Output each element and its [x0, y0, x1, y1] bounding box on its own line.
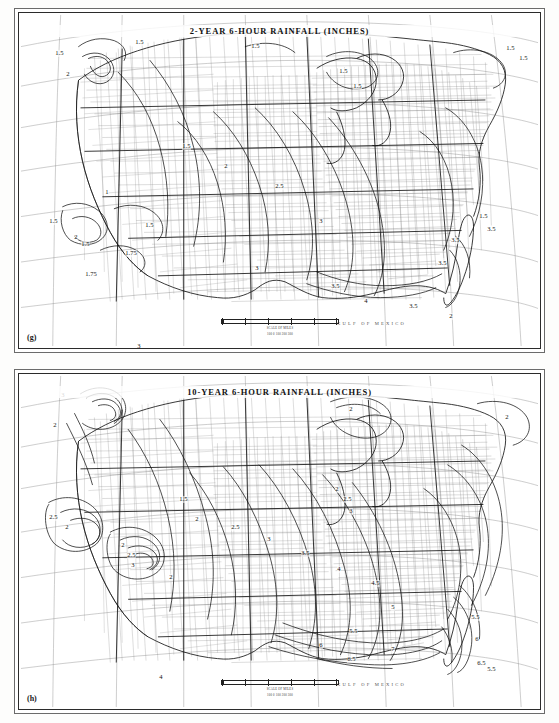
- contour-label: 2: [65, 524, 69, 531]
- contour-label: 5.5: [349, 628, 358, 635]
- contour-label: 6: [475, 636, 479, 643]
- contour-label: 1.75: [85, 271, 97, 278]
- scale-bar-h: SCALE OF MILES 100 0 100 200 300: [221, 680, 339, 697]
- contour-label: 1.5: [339, 68, 348, 75]
- map-frame-g: 1.5 1.5 1.5 1.5 1.5 1.5 1.5 2 1.5 2 1.5 …: [18, 12, 541, 349]
- contour-label: 2.5: [49, 514, 58, 521]
- map-graphic-10year: [19, 374, 540, 709]
- contour-label: 6.5: [477, 660, 486, 667]
- gulf-of-mexico-label: GULF OF MEXICO: [337, 321, 406, 326]
- scale-caption-line2: 100 0 100 200 300: [225, 332, 334, 336]
- contour-label: 2.5: [343, 496, 352, 503]
- map-panel-h: 3 2 2 2 2.5 2 2 2.5 3 2 2 2.5 3 1.5 2 2.…: [14, 369, 545, 714]
- contour-label: 4.5: [371, 580, 380, 587]
- contour-label: 2.5: [275, 183, 284, 190]
- document-page: 1.5 1.5 1.5 1.5 1.5 1.5 1.5 2 1.5 2 1.5 …: [0, 0, 559, 723]
- contour-label: 1.5: [353, 83, 362, 90]
- contour-label: 3.5: [331, 283, 340, 290]
- contour-label: 1.5: [55, 50, 64, 57]
- scale-bar-g: SCALE OF MILES 100 0 100 200 300: [221, 319, 339, 336]
- scale-bar-graphic: [221, 680, 339, 685]
- contour-label: 1.5: [479, 213, 488, 220]
- contour-label: 2: [505, 414, 509, 421]
- contour-label: 3: [255, 265, 259, 272]
- contour-label: 1.5: [251, 43, 260, 50]
- contour-label: 3: [61, 392, 65, 399]
- contour-label: 1.5: [145, 222, 154, 229]
- contour-label: 2: [66, 71, 70, 78]
- contour-label: 2: [335, 486, 339, 493]
- map-panel-g: 1.5 1.5 1.5 1.5 1.5 1.5 1.5 2 1.5 2 1.5 …: [14, 8, 545, 353]
- contour-label: 4: [337, 566, 341, 573]
- contour-label: 3.5: [451, 237, 460, 244]
- gulf-of-mexico-label: GULF OF MEXICO: [337, 682, 406, 687]
- contour-label: 3: [131, 562, 135, 569]
- contour-label: 1.5: [519, 55, 528, 62]
- contour-label: 3.5: [301, 550, 310, 557]
- contour-label: 5: [391, 604, 395, 611]
- map-graphic-2year: [19, 13, 540, 348]
- scale-bar-graphic: [221, 319, 339, 324]
- contour-label: 2.5: [231, 524, 240, 531]
- scale-caption-line1: SCALE OF MILES: [225, 326, 334, 330]
- contour-label: 2: [53, 422, 57, 429]
- scale-caption-line2: 100 0 100 200 300: [225, 693, 334, 697]
- contour-label: 2: [449, 313, 453, 320]
- contour-label: 2: [121, 542, 125, 549]
- contour-label: 1.5: [135, 39, 144, 46]
- contour-label: 2: [195, 516, 199, 523]
- contour-label: 3.5: [487, 226, 496, 233]
- contour-label: 4: [364, 298, 368, 305]
- contour-label: 2: [74, 234, 78, 241]
- contour-label: 3: [349, 508, 353, 515]
- contour-label: 1.75: [125, 250, 137, 257]
- map-frame-h: 3 2 2 2 2.5 2 2 2.5 3 2 2 2.5 3 1.5 2 2.…: [18, 373, 541, 710]
- contour-label: 2: [349, 406, 353, 413]
- contour-label: 3: [319, 218, 323, 225]
- contour-label: 2: [169, 574, 173, 581]
- contour-label: 4: [159, 674, 163, 681]
- contour-label: 1.5: [182, 143, 191, 150]
- contour-label: 3.5: [438, 260, 447, 267]
- contour-label: 1.5: [81, 241, 90, 248]
- contour-label: 3: [137, 343, 141, 349]
- contour-label: 2.5: [127, 552, 136, 559]
- contour-label: 1.5: [49, 218, 58, 225]
- contour-label: 1: [105, 189, 109, 196]
- panel-label-g: (g): [27, 333, 36, 342]
- scale-caption-line1: SCALE OF MILES: [225, 687, 334, 691]
- contour-label: 6: [319, 642, 323, 649]
- contour-label: 5.5: [487, 666, 496, 673]
- contour-label: 3: [267, 536, 271, 543]
- contour-label: 3.5: [409, 303, 418, 310]
- contour-label: 2: [224, 163, 228, 170]
- contour-label: 5.5: [471, 614, 480, 621]
- panel-label-h: (h): [27, 694, 37, 703]
- contour-label: 1.5: [179, 496, 188, 503]
- contour-label: 1.5: [506, 45, 515, 52]
- contour-label: 6.5: [347, 656, 356, 663]
- contour-label: 7: [391, 646, 395, 653]
